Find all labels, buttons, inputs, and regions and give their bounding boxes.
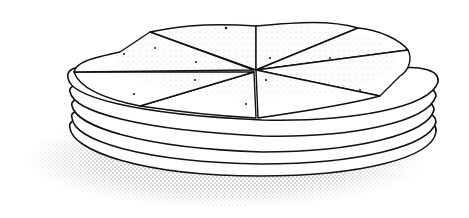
tortilla-stack-illustration [0, 0, 469, 218]
illustration-canvas [0, 0, 469, 218]
tortilla-texture [116, 22, 396, 98]
